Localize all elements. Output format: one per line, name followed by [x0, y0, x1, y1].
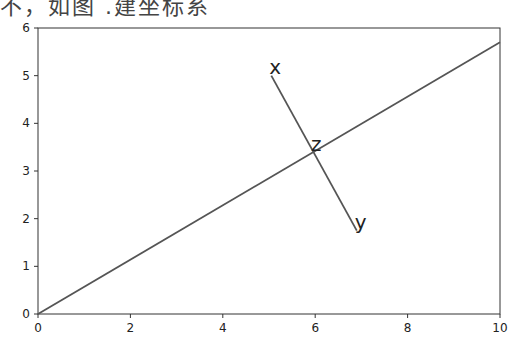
y-tick-label: 2 — [22, 212, 30, 226]
y-tick-label: 6 — [22, 21, 30, 35]
x-tick-label: 0 — [34, 321, 42, 335]
y-tick-label: 1 — [22, 259, 30, 273]
x-tick-label: 2 — [127, 321, 135, 335]
point-label-z: z — [311, 132, 322, 156]
x-tick-label: 4 — [219, 321, 227, 335]
point-label-y: y — [355, 210, 367, 234]
point-label-x: x — [269, 55, 281, 79]
y-tick-label: 5 — [22, 69, 30, 83]
x-tick-label: 8 — [404, 321, 412, 335]
x-tick-label: 6 — [311, 321, 319, 335]
y-tick-label: 0 — [22, 307, 30, 321]
x-tick-label: 10 — [492, 321, 507, 335]
y-tick-label: 3 — [22, 164, 30, 178]
series-main-line — [38, 42, 500, 314]
y-tick-label: 4 — [22, 116, 30, 130]
line-chart: 02468100123456xzy — [0, 0, 520, 353]
